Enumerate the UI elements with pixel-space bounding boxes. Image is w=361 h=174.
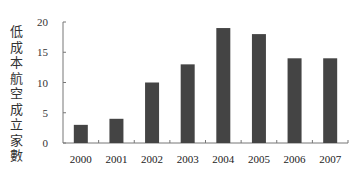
x-tick-label: 2003 xyxy=(177,153,200,165)
x-tick-label: 2005 xyxy=(248,153,271,165)
bar-2006 xyxy=(288,58,302,143)
x-tick-label: 2004 xyxy=(212,153,235,165)
bar-2005 xyxy=(252,34,266,143)
y-tick-label: 5 xyxy=(43,107,49,119)
x-tick-label: 2001 xyxy=(105,153,127,165)
bar-2002 xyxy=(145,83,159,144)
y-tick-label: 15 xyxy=(37,46,49,58)
x-tick-label: 2006 xyxy=(284,153,307,165)
y-tick-label: 0 xyxy=(43,137,49,149)
bar-2000 xyxy=(74,125,88,143)
x-tick-label: 2000 xyxy=(70,153,93,165)
bar-2007 xyxy=(323,58,337,143)
y-tick-label: 10 xyxy=(37,77,49,89)
bar-chart: 0510152020002001200220032004200520062007 xyxy=(0,0,361,174)
bar-2003 xyxy=(181,64,195,143)
x-tick-label: 2002 xyxy=(141,153,163,165)
bar-2004 xyxy=(216,28,230,143)
bar-2001 xyxy=(109,119,123,143)
x-tick-label: 2007 xyxy=(319,153,342,165)
y-tick-label: 20 xyxy=(37,16,49,28)
